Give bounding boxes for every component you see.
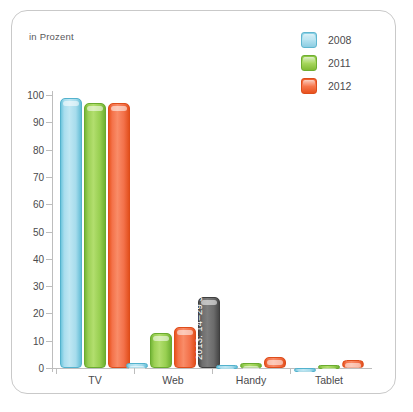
legend-item-2012[interactable]: 2012 <box>301 75 387 96</box>
legend-swatch-2012 <box>301 78 317 94</box>
legend-label-2008: 2008 <box>328 34 351 46</box>
legend-label-2011: 2011 <box>328 57 351 69</box>
legend-swatch-2011 <box>301 55 317 71</box>
legend-item-2011[interactable]: 2011 <box>301 52 387 73</box>
unit-label: in Prozent <box>29 31 74 42</box>
legend-swatch-2008 <box>301 32 317 48</box>
chart-legend: 2008 2011 2012 <box>301 29 387 98</box>
legend-item-2008[interactable]: 2008 <box>301 29 387 50</box>
legend-label-2012: 2012 <box>328 80 351 92</box>
